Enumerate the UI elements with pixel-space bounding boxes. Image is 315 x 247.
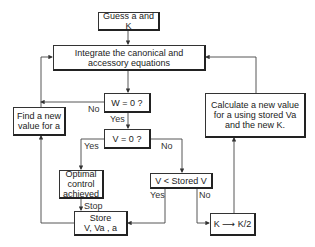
calculate-label-2: for a using stored Va	[214, 110, 296, 120]
v-check-box: V = 0 ?	[104, 129, 151, 149]
v-no-label: No	[161, 141, 173, 151]
v-less-box: V < Stored V	[150, 173, 213, 189]
optimal-label-3: achieved	[63, 189, 99, 199]
w-yes-label: Yes	[110, 114, 125, 124]
v-less-label: V < Stored V	[155, 176, 206, 186]
halve-k-box: K ⟶ K/2	[210, 213, 256, 236]
stop-label: Stop	[84, 201, 103, 211]
w-check-box: W = 0 ?	[104, 93, 151, 113]
calculate-label-3: and the new K.	[225, 120, 285, 130]
vless-no-label: No	[199, 190, 211, 200]
store-box: Store V, Va , a	[74, 211, 128, 236]
v-yes-label: Yes	[84, 141, 99, 151]
w-check-label: W = 0 ?	[111, 98, 142, 108]
calculate-label-1: Calculate a new value	[211, 100, 299, 110]
halve-k-label: K ⟶ K/2	[214, 219, 251, 229]
optimal-label-2: control	[67, 179, 94, 189]
find-a-label-2: value for a	[18, 121, 60, 131]
store-label-2: V, Va , a	[84, 223, 117, 233]
guess-label: Guess a and K	[99, 11, 158, 31]
integrate-box: Integrate the canonical and accessory eq…	[53, 45, 206, 71]
vless-yes-label: Yes	[150, 190, 165, 200]
find-a-label-1: Find a new	[17, 111, 61, 121]
find-a-box: Find a new value for a	[13, 107, 66, 136]
v-check-label: V = 0 ?	[113, 134, 142, 144]
integrate-label-2: accessory equations	[88, 58, 170, 68]
store-label-1: Store	[90, 213, 112, 223]
guess-box: Guess a and K	[98, 12, 160, 31]
integrate-label-1: Integrate the canonical and	[75, 48, 184, 58]
optimal-label-1: Optimal	[65, 169, 96, 179]
optimal-box: Optimal control achieved	[59, 170, 104, 199]
calculate-box: Calculate a new value for a using stored…	[205, 93, 306, 138]
w-no-label: No	[88, 104, 100, 114]
